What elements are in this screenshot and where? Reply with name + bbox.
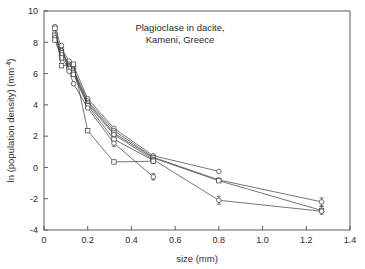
data-point-circle [319, 209, 324, 214]
data-point-circle [67, 69, 72, 74]
data-point-square [151, 159, 155, 163]
data-point-square [71, 62, 75, 66]
data-point-circle [112, 141, 117, 146]
x-tick-label: 0.2 [81, 235, 94, 245]
data-point-square [217, 179, 221, 183]
data-point-circle [85, 106, 90, 111]
chart-title-line-1: Plagioclase in dacite, [135, 22, 224, 33]
x-tick-label: 0.8 [213, 235, 226, 245]
y-tick-label: 10 [28, 6, 38, 16]
y-axis-title: ln (population density) (mm-4) [5, 59, 17, 183]
y-tick-label: 4 [33, 100, 38, 110]
x-tick-label: 0.6 [169, 235, 182, 245]
data-point-circle [217, 169, 222, 174]
data-point-square [112, 160, 116, 164]
x-tick-label: 1.0 [256, 235, 269, 245]
data-point-circle [217, 198, 222, 203]
data-point-circle [59, 43, 64, 48]
y-tick-label: 0 [33, 163, 38, 173]
x-tick-label: 1.2 [300, 235, 313, 245]
data-point-circle [319, 200, 324, 205]
y-axis-title-suffix: ) [5, 59, 16, 62]
y-tick-label: -4 [30, 225, 38, 235]
x-axis-title: size (mm) [176, 253, 218, 264]
x-tick-label: 0.4 [125, 235, 138, 245]
chart-title-line-2: Kameni, Greece [146, 34, 215, 45]
chart-canvas: 00.20.40.60.81.01.21.4-4-20246810size (m… [0, 0, 365, 269]
data-point-square [86, 128, 90, 132]
y-axis-title-main: ln (population density) (mm [5, 68, 16, 183]
y-axis-title-text: ln (population density) (mm-4) [5, 59, 17, 183]
y-tick-label: 8 [33, 38, 38, 48]
y-tick-label: 2 [33, 131, 38, 141]
data-point-circle [112, 132, 117, 137]
y-tick-label: 6 [33, 69, 38, 79]
data-point-square [59, 64, 63, 68]
data-point-circle [151, 175, 156, 180]
x-tick-label: 1.4 [344, 235, 357, 245]
data-point-circle [71, 81, 76, 86]
x-tick-label: 0 [41, 235, 46, 245]
csd-chart-figure: 00.20.40.60.81.01.21.4-4-20246810size (m… [0, 0, 365, 269]
data-point-square [53, 26, 57, 30]
y-tick-label: -2 [30, 194, 38, 204]
